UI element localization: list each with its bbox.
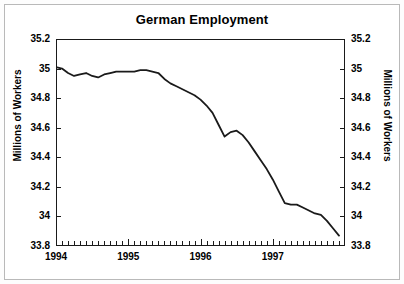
x-tick-mark-minor bbox=[134, 241, 135, 246]
y-tick-mark-left bbox=[56, 216, 61, 217]
chart-figure: German Employment Millions of Workers Mi… bbox=[0, 0, 404, 284]
x-tick-mark-minor bbox=[68, 241, 69, 246]
x-tick-mark-minor bbox=[189, 241, 190, 246]
y-tick-label-right: 35.2 bbox=[351, 34, 387, 44]
x-tick-mark-minor bbox=[176, 241, 177, 246]
y-tick-mark-left bbox=[56, 187, 61, 188]
x-tick-mark-minor bbox=[291, 241, 292, 246]
x-tick-mark-minor bbox=[315, 241, 316, 246]
x-tick-mark-minor bbox=[170, 241, 171, 246]
x-tick-mark-minor bbox=[333, 241, 334, 246]
y-tick-mark-left bbox=[56, 128, 61, 129]
x-tick-mark-minor bbox=[261, 241, 262, 246]
x-tick-mark-minor bbox=[140, 241, 141, 246]
x-tick-mark-minor bbox=[255, 241, 256, 246]
y-tick-label-left: 35 bbox=[14, 64, 50, 74]
x-tick-mark-minor bbox=[225, 241, 226, 246]
x-tick-mark-minor bbox=[98, 241, 99, 246]
x-tick-mark-minor bbox=[321, 241, 322, 246]
y-tick-mark-right bbox=[340, 69, 345, 70]
x-tick-label: 1996 bbox=[181, 251, 221, 262]
x-tick-mark-minor bbox=[285, 241, 286, 246]
x-tick-mark-minor bbox=[339, 241, 340, 246]
x-tick-mark-minor bbox=[237, 241, 238, 246]
x-tick-label: 1995 bbox=[108, 251, 148, 262]
x-tick-mark-minor bbox=[182, 241, 183, 246]
y-tick-label-left: 34.2 bbox=[14, 182, 50, 192]
chart-title: German Employment bbox=[0, 12, 404, 27]
x-tick-label: 1994 bbox=[36, 251, 76, 262]
y-tick-label-left: 34.8 bbox=[14, 93, 50, 103]
y-tick-label-left: 34.6 bbox=[14, 123, 50, 133]
x-tick-mark-minor bbox=[104, 241, 105, 246]
x-tick-mark-minor bbox=[80, 241, 81, 246]
y-tick-label-left: 34 bbox=[14, 211, 50, 221]
x-tick-mark-minor bbox=[164, 241, 165, 246]
y-tick-label-right: 35 bbox=[351, 64, 387, 74]
y-tick-label-left: 34.4 bbox=[14, 152, 50, 162]
x-tick-mark-major bbox=[201, 239, 202, 246]
y-tick-mark-right bbox=[340, 128, 345, 129]
y-tick-label-left: 35.2 bbox=[14, 34, 50, 44]
y-tick-label-right: 34.2 bbox=[351, 182, 387, 192]
x-tick-mark-minor bbox=[297, 241, 298, 246]
x-tick-mark-minor bbox=[158, 241, 159, 246]
series-line-german-employment bbox=[56, 39, 345, 246]
x-tick-mark-minor bbox=[309, 241, 310, 246]
x-tick-mark-minor bbox=[152, 241, 153, 246]
y-tick-mark-right bbox=[340, 98, 345, 99]
x-tick-mark-minor bbox=[116, 241, 117, 246]
y-tick-label-right: 34.4 bbox=[351, 152, 387, 162]
x-tick-mark-minor bbox=[146, 241, 147, 246]
y-tick-mark-right bbox=[340, 216, 345, 217]
y-tick-label-right: 34.8 bbox=[351, 93, 387, 103]
x-tick-mark-minor bbox=[86, 241, 87, 246]
x-tick-mark-minor bbox=[249, 241, 250, 246]
x-tick-mark-minor bbox=[195, 241, 196, 246]
x-tick-mark-minor bbox=[207, 241, 208, 246]
y-tick-mark-right bbox=[340, 187, 345, 188]
x-tick-mark-minor bbox=[303, 241, 304, 246]
x-tick-mark-minor bbox=[219, 241, 220, 246]
x-tick-mark-minor bbox=[74, 241, 75, 246]
x-tick-mark-minor bbox=[327, 241, 328, 246]
x-tick-mark-minor bbox=[62, 241, 63, 246]
x-tick-mark-minor bbox=[231, 241, 232, 246]
y-tick-mark-left bbox=[56, 69, 61, 70]
y-tick-mark-left bbox=[56, 157, 61, 158]
x-tick-mark-minor bbox=[213, 241, 214, 246]
y-tick-label-right: 34 bbox=[351, 211, 387, 221]
x-tick-mark-minor bbox=[267, 241, 268, 246]
x-tick-mark-minor bbox=[243, 241, 244, 246]
y-tick-label-right: 33.8 bbox=[351, 241, 387, 251]
y-tick-label-right: 34.6 bbox=[351, 123, 387, 133]
y-tick-label-left: 33.8 bbox=[14, 241, 50, 251]
x-tick-label: 1997 bbox=[253, 251, 293, 262]
x-tick-mark-minor bbox=[110, 241, 111, 246]
x-tick-mark-minor bbox=[279, 241, 280, 246]
y-tick-mark-left bbox=[56, 98, 61, 99]
y-tick-mark-right bbox=[340, 157, 345, 158]
x-tick-mark-minor bbox=[92, 241, 93, 246]
x-tick-mark-major bbox=[128, 239, 129, 246]
x-tick-mark-minor bbox=[122, 241, 123, 246]
x-tick-mark-major bbox=[273, 239, 274, 246]
